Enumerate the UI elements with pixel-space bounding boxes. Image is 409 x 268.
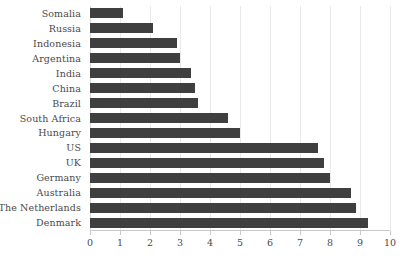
bar-row (90, 126, 390, 141)
bar (90, 68, 191, 78)
x-tick-mark (120, 231, 121, 235)
x-tick-label: 8 (327, 237, 333, 248)
x-axis-ticks: 012345678910 (90, 231, 390, 236)
x-tick-label: 5 (237, 237, 243, 248)
bar-row (90, 51, 390, 66)
category-label: Argentina (0, 51, 86, 66)
bar (90, 143, 318, 153)
x-tick-mark (210, 231, 211, 235)
category-label: Germany (0, 170, 86, 185)
category-label: UK (0, 155, 86, 170)
gridline (390, 6, 391, 230)
bar (90, 158, 324, 168)
plot-area (90, 6, 390, 230)
bar (90, 98, 198, 108)
category-label: China (0, 81, 86, 96)
category-label: Brazil (0, 96, 86, 111)
x-tick-label: 10 (384, 237, 396, 248)
x-tick-mark (180, 231, 181, 235)
bar-chart: SomaliaRussiaIndonesiaArgentinaIndiaChin… (0, 0, 409, 268)
category-label: South Africa (0, 111, 86, 126)
bar-row (90, 96, 390, 111)
x-tick-mark (270, 231, 271, 235)
category-label: Somalia (0, 6, 86, 21)
category-label: Australia (0, 185, 86, 200)
bar (90, 83, 195, 93)
bar-row (90, 200, 390, 215)
x-tick-mark (150, 231, 151, 235)
bar-row (90, 170, 390, 185)
x-tick-label: 1 (117, 237, 123, 248)
bar (90, 23, 153, 33)
bar-row (90, 111, 390, 126)
bar-row (90, 36, 390, 51)
x-tick-mark (240, 231, 241, 235)
x-tick-mark (90, 231, 91, 235)
bar-row (90, 21, 390, 36)
category-label: Indonesia (0, 36, 86, 51)
bar (90, 128, 240, 138)
category-label: India (0, 66, 86, 81)
bar-row (90, 215, 390, 230)
category-label: US (0, 140, 86, 155)
x-tick-mark (390, 231, 391, 235)
x-tick-mark (360, 231, 361, 235)
x-tick-label: 6 (267, 237, 273, 248)
x-tick-label: 0 (87, 237, 93, 248)
x-tick-mark (300, 231, 301, 235)
category-label: Hungary (0, 126, 86, 141)
bar (90, 8, 123, 18)
bar-row (90, 81, 390, 96)
bar (90, 113, 228, 123)
bar (90, 203, 356, 213)
category-label: Russia (0, 21, 86, 36)
bar-row (90, 6, 390, 21)
bar-row (90, 66, 390, 81)
bar (90, 218, 368, 228)
bar-row (90, 140, 390, 155)
bar-series (90, 6, 390, 230)
bar (90, 53, 180, 63)
bar (90, 173, 330, 183)
bar-row (90, 155, 390, 170)
bar (90, 38, 177, 48)
x-tick-mark (330, 231, 331, 235)
x-tick-label: 4 (207, 237, 213, 248)
x-tick-label: 9 (357, 237, 363, 248)
category-axis-labels: SomaliaRussiaIndonesiaArgentinaIndiaChin… (0, 6, 86, 230)
bar (90, 188, 351, 198)
x-tick-label: 7 (297, 237, 303, 248)
category-label: Denmark (0, 215, 86, 230)
x-tick-label: 3 (177, 237, 183, 248)
x-tick-label: 2 (147, 237, 153, 248)
bar-row (90, 185, 390, 200)
category-label: The Netherlands (0, 200, 86, 215)
